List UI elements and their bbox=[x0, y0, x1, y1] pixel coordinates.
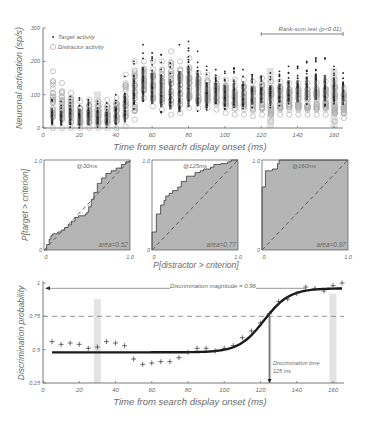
target-point bbox=[242, 84, 244, 86]
target-point bbox=[179, 44, 181, 46]
roc-ytick-label: 1.0 bbox=[252, 158, 261, 164]
target-point bbox=[106, 102, 108, 104]
target-point bbox=[233, 81, 235, 83]
target-point bbox=[269, 91, 271, 93]
target-point bbox=[324, 88, 326, 90]
distractor-point bbox=[232, 112, 237, 117]
target-point bbox=[60, 100, 62, 102]
target-point bbox=[160, 74, 162, 76]
y-tick-label: 1 bbox=[37, 280, 40, 286]
target-point bbox=[78, 127, 80, 129]
target-point bbox=[206, 92, 208, 94]
target-point bbox=[279, 96, 281, 98]
target-point bbox=[224, 70, 226, 72]
target-cluster bbox=[242, 84, 244, 106]
target-point bbox=[142, 78, 144, 80]
distractor-point bbox=[78, 99, 83, 104]
target-point bbox=[188, 100, 190, 102]
disc-time-value: 125 ms bbox=[273, 368, 291, 374]
target-point bbox=[169, 101, 171, 103]
target-point bbox=[133, 108, 135, 110]
target-point bbox=[106, 111, 108, 113]
target-point bbox=[169, 73, 171, 75]
target-point bbox=[215, 91, 217, 93]
target-point bbox=[188, 47, 190, 49]
target-point bbox=[224, 80, 226, 82]
target-point bbox=[242, 76, 244, 78]
target-point bbox=[269, 72, 271, 74]
distractor-point bbox=[296, 112, 301, 117]
target-point bbox=[97, 117, 99, 119]
target-point bbox=[297, 75, 299, 77]
target-point bbox=[197, 110, 199, 112]
target-point bbox=[169, 62, 171, 64]
target-point bbox=[188, 56, 190, 58]
target-point bbox=[269, 104, 271, 106]
target-point bbox=[60, 115, 62, 117]
target-point bbox=[333, 74, 335, 76]
target-point bbox=[306, 60, 308, 62]
target-point bbox=[88, 101, 90, 103]
target-point bbox=[206, 103, 208, 105]
target-point bbox=[69, 108, 71, 110]
distractor-point bbox=[323, 112, 328, 117]
target-point bbox=[251, 90, 253, 92]
target-point bbox=[78, 117, 80, 119]
target-point bbox=[188, 88, 190, 90]
target-cluster bbox=[142, 67, 144, 102]
target-point bbox=[315, 75, 317, 77]
target-point bbox=[51, 121, 53, 123]
x-tick-label: 80 bbox=[185, 132, 192, 138]
target-cluster bbox=[60, 111, 62, 126]
target-point bbox=[306, 77, 308, 79]
distractor-point bbox=[59, 80, 64, 85]
target-point bbox=[206, 109, 208, 111]
target-point bbox=[206, 74, 208, 76]
target-point bbox=[124, 75, 126, 77]
distractor-point bbox=[150, 67, 155, 72]
target-point bbox=[342, 90, 344, 92]
distractor-point bbox=[241, 112, 246, 117]
target-point bbox=[179, 101, 181, 103]
target-point bbox=[215, 79, 217, 81]
target-point bbox=[242, 108, 244, 110]
target-point bbox=[306, 73, 308, 75]
target-point bbox=[242, 104, 244, 106]
target-point bbox=[142, 76, 144, 78]
target-point bbox=[215, 76, 217, 78]
panel-a-ylabel: Neuronal activation (sp/s) bbox=[14, 27, 24, 129]
target-point bbox=[160, 69, 162, 71]
panel-c-discrimination: 0.250.50.751020406080100120140160 bbox=[29, 280, 344, 393]
target-point bbox=[233, 97, 235, 99]
target-point bbox=[151, 96, 153, 98]
panel-c-xlabel: Time from search display onset (ms) bbox=[113, 396, 267, 407]
x-tick-label: 40 bbox=[112, 132, 119, 138]
target-point bbox=[215, 81, 217, 83]
target-point bbox=[269, 107, 271, 109]
target-point bbox=[224, 97, 226, 99]
roc-ytick-label: 1.0 bbox=[142, 158, 151, 164]
distractor-point bbox=[223, 110, 228, 115]
target-point bbox=[288, 82, 290, 84]
target-point bbox=[160, 54, 162, 56]
target-point bbox=[88, 109, 90, 111]
target-point bbox=[88, 107, 90, 109]
target-point bbox=[279, 70, 281, 72]
target-point bbox=[188, 40, 190, 42]
roc3-area: area=0.97 bbox=[317, 241, 347, 248]
target-point bbox=[124, 101, 126, 103]
magnitude-label: Discrimination magnitude = 0.96 bbox=[170, 283, 257, 289]
target-point bbox=[115, 114, 117, 116]
target-point bbox=[124, 121, 126, 123]
legend-target-marker bbox=[52, 36, 54, 38]
target-point bbox=[115, 100, 117, 102]
target-point bbox=[260, 98, 262, 100]
target-point bbox=[60, 107, 62, 109]
target-point bbox=[297, 85, 299, 87]
target-point bbox=[333, 96, 335, 98]
target-point bbox=[224, 91, 226, 93]
target-point bbox=[179, 92, 181, 94]
target-point bbox=[151, 70, 153, 72]
roc-ytick-label: 0 bbox=[39, 247, 43, 253]
target-point bbox=[333, 100, 335, 102]
